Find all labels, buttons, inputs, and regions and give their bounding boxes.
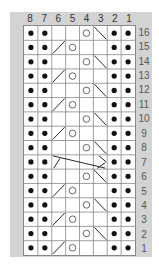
purl-dot-icon — [112, 245, 117, 250]
row-number: 9 — [136, 126, 152, 140]
purl-dot-icon — [28, 145, 33, 150]
purl-dot-icon — [125, 159, 130, 164]
row-number: 11 — [136, 97, 152, 111]
purl-dot-icon — [28, 217, 33, 222]
purl-dot-icon — [28, 245, 33, 250]
column-number: 6 — [51, 12, 65, 25]
cable-cross-icon — [99, 156, 106, 162]
k2tog-icon — [53, 99, 65, 111]
purl-dot-icon — [125, 145, 130, 150]
yarn-over-icon — [69, 187, 76, 194]
column-number: 8 — [23, 12, 37, 25]
purl-dot-icon — [42, 145, 47, 150]
column-number: 2 — [108, 12, 122, 25]
purl-dot-icon — [42, 174, 47, 179]
cable-cross-icon — [54, 158, 60, 168]
purl-dot-icon — [112, 131, 117, 136]
purl-dot-icon — [42, 73, 47, 78]
purl-dot-icon — [42, 102, 47, 107]
purl-dot-icon — [42, 31, 47, 36]
row-number: 12 — [136, 83, 152, 97]
yarn-over-icon — [69, 216, 76, 223]
column-number: 1 — [122, 12, 136, 25]
purl-dot-icon — [125, 59, 130, 64]
purl-dot-icon — [112, 188, 117, 193]
row-number: 6 — [136, 169, 152, 183]
purl-dot-icon — [125, 217, 130, 222]
purl-dot-icon — [42, 116, 47, 121]
row-number: 15 — [136, 39, 152, 53]
purl-dot-icon — [42, 88, 47, 93]
column-numbers: 8 7 6 5 4 3 2 1 — [23, 12, 136, 25]
purl-dot-icon — [125, 245, 130, 250]
purl-dot-icon — [125, 102, 130, 107]
purl-dot-icon — [28, 159, 33, 164]
k2tog-icon — [53, 70, 65, 82]
yarn-over-icon — [69, 73, 76, 80]
purl-dot-icon — [42, 245, 47, 250]
purl-dot-icon — [125, 116, 130, 121]
yarn-over-icon — [83, 202, 90, 209]
purl-dot-icon — [112, 116, 117, 121]
purl-dot-icon — [42, 217, 47, 222]
purl-dot-icon — [28, 188, 33, 193]
purl-dot-icon — [125, 174, 130, 179]
yarn-over-icon — [83, 116, 90, 123]
purl-dot-icon — [125, 88, 130, 93]
purl-dot-icon — [125, 131, 130, 136]
purl-dot-icon — [28, 31, 33, 36]
purl-dot-icon — [28, 73, 33, 78]
purl-dot-icon — [28, 88, 33, 93]
purl-dot-icon — [125, 31, 130, 36]
column-number: 7 — [37, 12, 51, 25]
yarn-over-icon — [69, 44, 76, 51]
purl-dot-icon — [112, 217, 117, 222]
ssk-icon — [94, 142, 106, 154]
purl-dot-icon — [42, 231, 47, 236]
purl-dot-icon — [28, 102, 33, 107]
yarn-over-icon — [83, 58, 90, 65]
k2tog-icon — [53, 242, 65, 254]
purl-dot-icon — [42, 131, 47, 136]
chart-symbols — [24, 26, 135, 255]
knitting-chart-grid — [23, 25, 136, 256]
purl-dot-icon — [125, 231, 130, 236]
purl-dot-icon — [125, 188, 130, 193]
ssk-icon — [94, 27, 106, 39]
purl-dot-icon — [28, 59, 33, 64]
purl-dot-icon — [112, 31, 117, 36]
yarn-over-icon — [69, 245, 76, 252]
ssk-icon — [94, 84, 106, 96]
purl-dot-icon — [112, 145, 117, 150]
purl-dot-icon — [42, 45, 47, 50]
purl-dot-icon — [42, 188, 47, 193]
row-number: 13 — [136, 68, 152, 82]
purl-dot-icon — [28, 45, 33, 50]
yarn-over-icon — [83, 144, 90, 151]
row-number: 16 — [136, 25, 152, 39]
row-number: 5 — [136, 184, 152, 198]
purl-dot-icon — [28, 202, 33, 207]
purl-dot-icon — [112, 73, 117, 78]
ssk-icon — [94, 227, 106, 239]
purl-dot-icon — [125, 202, 130, 207]
purl-dot-icon — [125, 45, 130, 50]
k2tog-icon — [53, 127, 65, 139]
cable-cross-icon — [53, 156, 106, 168]
purl-dot-icon — [125, 73, 130, 78]
yarn-over-icon — [83, 173, 90, 180]
yarn-over-icon — [83, 87, 90, 94]
purl-dot-icon — [42, 159, 47, 164]
purl-dot-icon — [112, 59, 117, 64]
yarn-over-icon — [83, 230, 90, 237]
purl-dot-icon — [112, 45, 117, 50]
yarn-over-icon — [69, 130, 76, 137]
k2tog-icon — [53, 41, 65, 53]
row-numbers: 16 15 14 13 12 11 10 9 8 7 6 5 4 3 2 1 — [136, 25, 152, 256]
row-number: 8 — [136, 141, 152, 155]
column-number: 5 — [65, 12, 79, 25]
purl-dot-icon — [28, 131, 33, 136]
purl-dot-icon — [28, 174, 33, 179]
purl-dot-icon — [28, 231, 33, 236]
row-number: 1 — [136, 242, 152, 256]
